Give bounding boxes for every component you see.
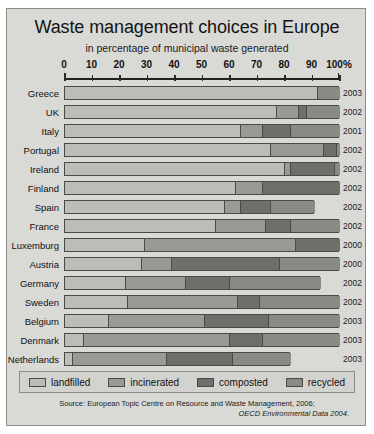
bar-area xyxy=(64,314,339,328)
bar-area xyxy=(64,124,339,138)
stacked-bar[interactable] xyxy=(64,352,290,366)
bar-segment-incinerated[interactable] xyxy=(145,239,296,251)
stacked-bar[interactable] xyxy=(64,181,339,195)
legend-item[interactable]: recycled xyxy=(286,377,345,388)
stacked-bar[interactable] xyxy=(64,86,339,100)
bar-segment-incinerated[interactable] xyxy=(241,125,263,137)
bar-segment-composted[interactable] xyxy=(238,296,260,308)
bar-segment-landfilled[interactable] xyxy=(65,334,84,346)
bar-segment-landfilled[interactable] xyxy=(65,315,109,327)
x-tick-label: 40 xyxy=(168,59,179,70)
bar-segment-composted[interactable] xyxy=(172,258,279,270)
bar-segment-landfilled[interactable] xyxy=(65,182,236,194)
stacked-bar[interactable] xyxy=(64,314,339,328)
country-label: Netherlands xyxy=(7,354,59,365)
chart-legend: landfilledincineratedcompostedrecycled xyxy=(19,371,355,393)
chart-row: Netherlands2003 xyxy=(7,351,367,370)
bar-segment-incinerated[interactable] xyxy=(236,182,264,194)
chart-row: France2002 xyxy=(7,218,367,237)
bar-segment-recycled[interactable] xyxy=(318,87,340,99)
x-tick-mark xyxy=(202,75,204,81)
bar-segment-recycled[interactable] xyxy=(337,144,340,156)
bar-segment-incinerated[interactable] xyxy=(271,144,323,156)
bar-segment-incinerated[interactable] xyxy=(128,296,238,308)
bar-segment-recycled[interactable] xyxy=(269,315,341,327)
bar-segment-composted[interactable] xyxy=(205,315,268,327)
bar-segment-incinerated[interactable] xyxy=(225,201,242,213)
stacked-bar[interactable] xyxy=(64,333,339,347)
year-label: 2002 xyxy=(343,107,362,117)
stacked-bar[interactable] xyxy=(64,295,339,309)
bar-segment-recycled[interactable] xyxy=(291,220,341,232)
bar-area xyxy=(64,238,339,252)
chart-row: Greece2003 xyxy=(7,85,367,104)
bar-segment-incinerated[interactable] xyxy=(73,353,167,365)
stacked-bar[interactable] xyxy=(64,276,320,290)
bar-segment-incinerated[interactable] xyxy=(84,334,230,346)
bar-segment-composted[interactable] xyxy=(263,182,340,194)
bar-segment-landfilled[interactable] xyxy=(65,220,216,232)
stacked-bar[interactable] xyxy=(64,124,339,138)
bar-segment-recycled[interactable] xyxy=(260,296,340,308)
bar-area xyxy=(64,333,339,347)
legend-item[interactable]: landfilled xyxy=(29,377,90,388)
bar-segment-landfilled[interactable] xyxy=(65,258,142,270)
bar-segment-landfilled[interactable] xyxy=(65,296,128,308)
legend-label: composted xyxy=(219,377,268,388)
bar-segment-landfilled[interactable] xyxy=(65,125,241,137)
bar-segment-composted[interactable] xyxy=(299,106,307,118)
bar-segment-incinerated[interactable] xyxy=(216,220,266,232)
bar-segment-landfilled[interactable] xyxy=(65,353,73,365)
bar-segment-incinerated[interactable] xyxy=(126,277,187,289)
chart-row: Austria2000 xyxy=(7,256,367,275)
bar-segment-landfilled[interactable] xyxy=(65,163,285,175)
x-tick-mark xyxy=(229,75,231,81)
bar-segment-landfilled[interactable] xyxy=(65,87,318,99)
bar-segment-recycled[interactable] xyxy=(233,353,291,365)
stacked-bar[interactable] xyxy=(64,162,339,176)
legend-item[interactable]: incinerated xyxy=(108,377,179,388)
bar-segment-landfilled[interactable] xyxy=(65,201,225,213)
chart-row: Denmark2003 xyxy=(7,332,367,351)
bar-segment-recycled[interactable] xyxy=(335,163,341,175)
bar-segment-composted[interactable] xyxy=(291,163,335,175)
bar-segment-landfilled[interactable] xyxy=(65,144,271,156)
x-tick-label: 0 xyxy=(61,59,67,70)
stacked-bar[interactable] xyxy=(64,219,339,233)
stacked-bar[interactable] xyxy=(64,257,339,271)
x-tick-label: 100% xyxy=(326,59,352,70)
country-label: Italy xyxy=(7,126,59,137)
stacked-bar[interactable] xyxy=(64,105,339,119)
bar-segment-composted[interactable] xyxy=(186,277,230,289)
bar-segment-landfilled[interactable] xyxy=(65,106,277,118)
legend-item[interactable]: composted xyxy=(197,377,268,388)
chart-row: Italy2001 xyxy=(7,123,367,142)
year-label: 2003 xyxy=(343,354,362,364)
stacked-bar[interactable] xyxy=(64,200,314,214)
bar-segment-composted[interactable] xyxy=(266,220,291,232)
stacked-bar[interactable] xyxy=(64,238,339,252)
chart-page: Waste management choices in Europe in pe… xyxy=(0,0,374,434)
bar-segment-landfilled[interactable] xyxy=(65,239,145,251)
bar-segment-recycled[interactable] xyxy=(230,277,321,289)
bar-segment-recycled[interactable] xyxy=(307,106,340,118)
bar-segment-composted[interactable] xyxy=(296,239,340,251)
bar-segment-incinerated[interactable] xyxy=(142,258,172,270)
bar-area xyxy=(64,219,339,233)
bar-segment-composted[interactable] xyxy=(167,353,233,365)
stacked-bar[interactable] xyxy=(64,143,339,157)
bar-segment-composted[interactable] xyxy=(241,201,271,213)
bar-segment-incinerated[interactable] xyxy=(109,315,205,327)
bar-segment-recycled[interactable] xyxy=(263,334,340,346)
bar-segment-incinerated[interactable] xyxy=(277,106,299,118)
x-tick-mark xyxy=(119,75,121,81)
bar-segment-recycled[interactable] xyxy=(271,201,315,213)
bar-segment-composted[interactable] xyxy=(324,144,338,156)
year-label: 2002 xyxy=(343,164,362,174)
bar-segment-recycled[interactable] xyxy=(280,258,341,270)
bar-segment-landfilled[interactable] xyxy=(65,277,126,289)
bar-segment-composted[interactable] xyxy=(230,334,263,346)
bar-segment-composted[interactable] xyxy=(263,125,291,137)
country-label: Spain xyxy=(7,202,59,213)
bar-segment-recycled[interactable] xyxy=(291,125,341,137)
